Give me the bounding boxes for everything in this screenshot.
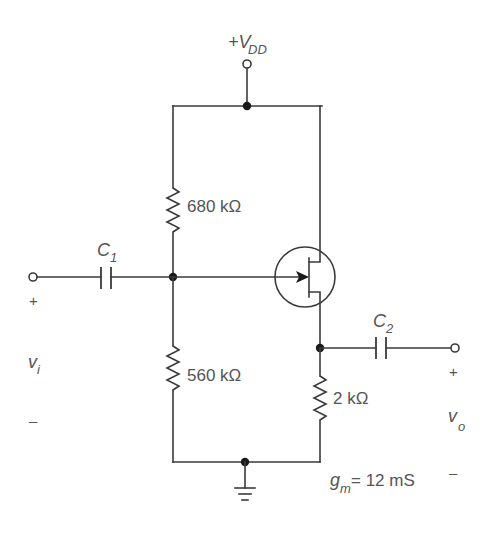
r1-zigzag — [167, 188, 179, 232]
vdd-supply: +V DD — [228, 32, 267, 106]
rs-zigzag — [314, 376, 326, 420]
rs-label: 2 kΩ — [333, 389, 368, 408]
r2-zigzag — [167, 346, 179, 390]
gm-value: = 12 mS — [351, 471, 415, 490]
resistor-r2: 560 kΩ — [167, 277, 241, 462]
ground-icon — [235, 462, 255, 500]
input-terminal — [29, 273, 37, 281]
input-port: + v i – — [28, 273, 101, 429]
gm-label: g — [330, 470, 340, 490]
gm-subscript: m — [340, 481, 351, 496]
vdd-node — [243, 102, 251, 110]
input-subscript: i — [37, 362, 41, 377]
capacitor-c1: C 1 — [97, 240, 173, 289]
resistor-rs: 2 kΩ — [314, 348, 368, 462]
resistor-r1: 680 kΩ — [167, 106, 241, 277]
output-plus: + — [449, 363, 458, 380]
jfet-transistor — [275, 106, 335, 348]
output-terminal — [451, 344, 459, 352]
c1-label: C — [97, 240, 111, 260]
c1-subscript: 1 — [110, 250, 117, 265]
circuit-schematic: +V DD 680 kΩ + v i – C 1 — [0, 0, 488, 540]
input-minus: – — [29, 412, 38, 429]
c2-label: C — [373, 311, 387, 331]
jfet-drain — [309, 106, 320, 262]
jfet-source — [309, 292, 320, 348]
output-subscript: o — [458, 419, 465, 434]
r2-label: 560 kΩ — [187, 366, 241, 385]
input-plus: + — [29, 292, 38, 309]
vdd-terminal — [243, 60, 251, 68]
c2-subscript: 2 — [385, 321, 394, 336]
capacitor-c2: C 2 — [320, 311, 451, 359]
output-label: v — [448, 406, 458, 426]
vdd-subscript: DD — [248, 42, 267, 57]
output-port: + v o – — [448, 344, 465, 481]
r1-label: 680 kΩ — [187, 197, 241, 216]
transconductance-annotation: g m = 12 mS — [330, 470, 415, 496]
output-minus: – — [449, 464, 458, 481]
